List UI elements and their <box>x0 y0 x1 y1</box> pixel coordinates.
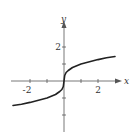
cube-root-plot: -2 2 2 x y <box>0 0 133 135</box>
x-tick-label-pos2: 2 <box>95 85 101 95</box>
y-axis-label: y <box>60 14 67 24</box>
x-axis-arrow-icon <box>115 79 122 84</box>
x-tick-label-neg2: -2 <box>23 85 32 95</box>
x-axis-label: x <box>124 76 129 86</box>
y-tick-label-pos2: 2 <box>55 42 61 52</box>
x-axis <box>11 79 122 84</box>
